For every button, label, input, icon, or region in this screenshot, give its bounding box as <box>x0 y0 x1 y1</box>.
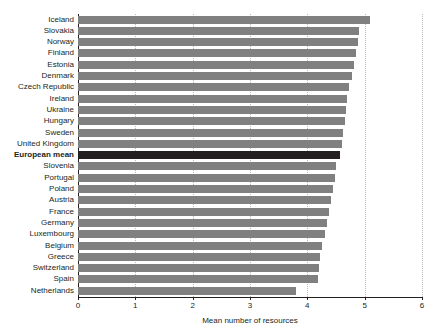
bar <box>78 27 359 35</box>
cropped-title-strip <box>0 0 433 11</box>
bar-row: Spain <box>78 274 422 285</box>
category-label: Sweden <box>45 128 74 138</box>
x-tick-label: 4 <box>305 301 309 310</box>
category-label: Iceland <box>48 15 74 25</box>
x-tick <box>193 297 194 300</box>
x-tick <box>135 297 136 300</box>
bar-row: Ukraine <box>78 104 422 115</box>
bar-row: Belgium <box>78 240 422 251</box>
bar-row: Slovenia <box>78 161 422 172</box>
bar <box>78 95 347 103</box>
bar-row: Switzerland <box>78 263 422 274</box>
bar <box>78 162 336 170</box>
gridline-6 <box>422 14 423 297</box>
category-label: Poland <box>49 184 74 194</box>
category-label: Hungary <box>44 116 74 126</box>
bar <box>78 72 352 80</box>
category-label: Slovenia <box>43 161 74 171</box>
category-label: Switzerland <box>33 263 74 273</box>
category-label: Germany <box>41 218 74 228</box>
x-tick <box>365 297 366 300</box>
category-label: Portugal <box>44 173 74 183</box>
category-label: Belgium <box>45 241 74 251</box>
category-label: Norway <box>47 37 74 47</box>
bar <box>78 230 325 238</box>
bar-chart: IcelandSlovakiaNorwayFinlandEstoniaDenma… <box>0 0 433 333</box>
x-tick-label: 6 <box>420 301 424 310</box>
bar-row: Luxembourg <box>78 229 422 240</box>
x-tick-label: 3 <box>248 301 252 310</box>
bar-row: Greece <box>78 251 422 262</box>
bar <box>78 287 296 295</box>
category-label: Austria <box>49 195 74 205</box>
category-label: United Kingdom <box>17 139 74 149</box>
category-label: Estonia <box>47 60 74 70</box>
category-label: Netherlands <box>31 286 74 296</box>
bar <box>78 253 320 261</box>
bar <box>78 264 319 272</box>
plot-area: IcelandSlovakiaNorwayFinlandEstoniaDenma… <box>78 14 422 297</box>
category-label: Ireland <box>50 94 74 104</box>
bar <box>78 16 370 24</box>
bar-row: Hungary <box>78 116 422 127</box>
bar-row: Slovakia <box>78 25 422 36</box>
category-label: Slovakia <box>44 26 74 36</box>
bar <box>78 117 345 125</box>
x-tick <box>78 297 79 300</box>
category-label: Czech Republic <box>18 82 74 92</box>
bar <box>78 129 343 137</box>
bar-row: Estonia <box>78 59 422 70</box>
x-tick-label: 0 <box>76 301 80 310</box>
x-tick-label: 5 <box>362 301 366 310</box>
category-label: Ukraine <box>46 105 74 115</box>
bar <box>78 185 333 193</box>
category-label: Greece <box>48 252 74 262</box>
bar-row: France <box>78 206 422 217</box>
bar <box>78 151 340 159</box>
category-label: Denmark <box>42 71 74 81</box>
bar <box>78 208 329 216</box>
bar-row: Sweden <box>78 127 422 138</box>
bar-row: Austria <box>78 195 422 206</box>
bar <box>78 106 346 114</box>
bar-row: Netherlands <box>78 285 422 296</box>
bar-row: Poland <box>78 184 422 195</box>
category-label: France <box>49 207 74 217</box>
bar <box>78 174 335 182</box>
bar-row: Germany <box>78 217 422 228</box>
bar <box>78 242 322 250</box>
bar <box>78 275 318 283</box>
x-tick-label: 2 <box>190 301 194 310</box>
x-tick <box>250 297 251 300</box>
category-label: Finland <box>48 48 74 58</box>
bar-row: Denmark <box>78 71 422 82</box>
bar-row: Portugal <box>78 172 422 183</box>
bar-row: Ireland <box>78 93 422 104</box>
bar-row: Norway <box>78 37 422 48</box>
bar <box>78 196 331 204</box>
category-label: Spain <box>54 274 74 284</box>
x-axis-label: Mean number of resources <box>78 316 422 325</box>
bar-row: Finland <box>78 48 422 59</box>
bar <box>78 49 356 57</box>
x-tick <box>307 297 308 300</box>
bar <box>78 140 342 148</box>
bar-row: European mean <box>78 150 422 161</box>
category-label: European mean <box>14 150 74 160</box>
bar <box>78 38 358 46</box>
x-tick <box>422 297 423 300</box>
bar <box>78 83 349 91</box>
bar <box>78 61 354 69</box>
category-label: Luxembourg <box>30 229 74 239</box>
x-tick-label: 1 <box>133 301 137 310</box>
bar-row: United Kingdom <box>78 138 422 149</box>
bar <box>78 219 327 227</box>
bar-row: Czech Republic <box>78 82 422 93</box>
bar-row: Iceland <box>78 14 422 25</box>
